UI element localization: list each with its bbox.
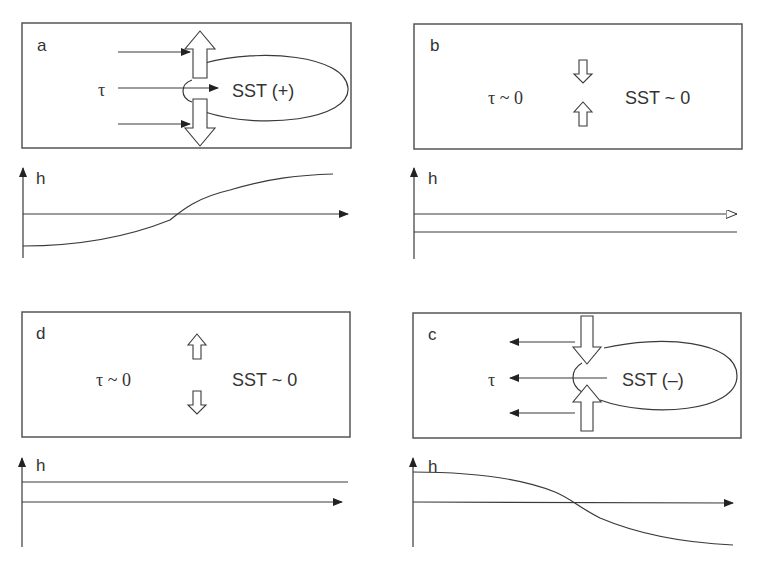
panel-d-box bbox=[22, 312, 350, 437]
panel-b-label: b bbox=[430, 36, 439, 55]
sst-label: SST (+) bbox=[232, 81, 294, 101]
h-axis-label: h bbox=[428, 457, 437, 476]
h-axis-label: h bbox=[36, 456, 45, 475]
panel-b: b τ ~ 0 SST ~ 0 h bbox=[414, 24, 742, 259]
panel-d-label: d bbox=[36, 324, 45, 343]
downward-arrow-icon bbox=[185, 99, 215, 146]
sst-warm-pool-left-arc bbox=[183, 80, 192, 102]
panel-c-box bbox=[413, 313, 741, 438]
downward-arrow-icon bbox=[188, 391, 206, 414]
upward-arrow-icon bbox=[573, 385, 601, 431]
sst-label: SST (–) bbox=[622, 370, 684, 390]
tau-label: τ bbox=[98, 80, 105, 100]
tau-label: τ bbox=[488, 370, 495, 390]
upward-arrow-icon bbox=[574, 102, 592, 126]
downward-arrow-icon bbox=[573, 316, 601, 364]
tau-label: τ ~ 0 bbox=[488, 88, 523, 108]
panel-b-box bbox=[414, 24, 742, 149]
h-profile-curve bbox=[23, 174, 333, 246]
panel-a-label: a bbox=[37, 36, 47, 55]
diagram-canvas: a τ SST (+) h b τ ~ 0 SST ~ 0 h bbox=[0, 0, 763, 568]
downward-arrow-icon bbox=[574, 60, 592, 83]
sst-label: SST ~ 0 bbox=[232, 370, 297, 390]
tau-label: τ ~ 0 bbox=[96, 370, 131, 390]
upward-arrow-icon bbox=[188, 334, 206, 359]
h-axis-label: h bbox=[36, 169, 45, 188]
h-profile-curve bbox=[413, 472, 733, 545]
h-axis-label: h bbox=[428, 169, 437, 188]
panel-d: d τ ~ 0 SST ~ 0 h bbox=[22, 312, 350, 547]
sst-label: SST ~ 0 bbox=[625, 88, 690, 108]
panel-a: a τ SST (+) h bbox=[22, 23, 351, 258]
upwelling-up-arrow-icon bbox=[185, 31, 215, 78]
panel-c: c τ SST (–) h bbox=[413, 313, 741, 547]
panel-c-label: c bbox=[428, 325, 437, 344]
